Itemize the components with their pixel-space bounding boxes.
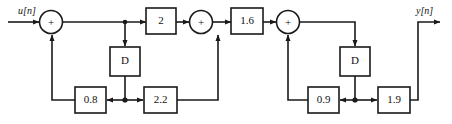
junction-dot-adder1-out — [123, 20, 128, 25]
gain-forward-2-label: 1.6 — [231, 15, 263, 26]
junction-dot-delay2-out — [352, 97, 357, 102]
delay-1-label: D — [110, 55, 140, 66]
block-diagram-canvas: + + + u[n] y[n] 2 1.6 D D 0.8 2.2 0.9 1.… — [0, 0, 452, 124]
adder-2-plus-symbol: + — [198, 17, 204, 28]
junction-dot-delay1-out — [122, 97, 127, 102]
adder-1-plus-symbol: + — [48, 17, 54, 28]
gain-forward-1-label: 2 — [146, 15, 176, 26]
input-signal-label: u[n] — [18, 6, 36, 16]
diagram-wires-layer — [0, 0, 452, 124]
wire-gain19-to-output — [410, 22, 440, 100]
gain-feedforward-2-label: 1.9 — [378, 94, 410, 105]
gain-feedback-1-label: 0.8 — [75, 94, 106, 105]
gain-feedback-2-label: 0.9 — [308, 94, 339, 105]
wire-adder3-to-delay2 — [300, 22, 355, 46]
gain-feedforward-1-label: 2.2 — [144, 94, 177, 105]
wire-gain09-feedback-to-adder3 — [288, 35, 308, 100]
adder-3-plus-symbol: + — [285, 17, 291, 28]
output-signal-label: y[n] — [416, 6, 433, 16]
wire-gain08-feedback-to-adder1 — [52, 35, 75, 100]
wire-gain22-to-adder2 — [177, 35, 218, 100]
delay-2-label: D — [340, 55, 370, 66]
